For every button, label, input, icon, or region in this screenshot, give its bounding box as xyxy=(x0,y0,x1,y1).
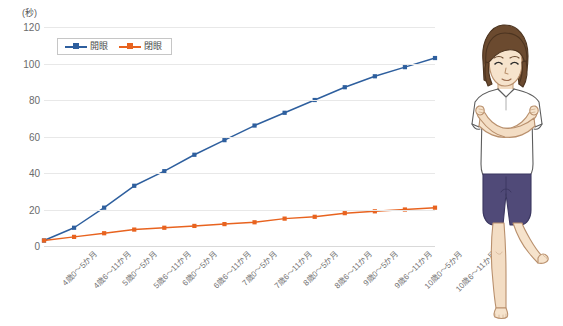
legend-marker-icon-1 xyxy=(119,42,141,51)
leg-standing xyxy=(492,223,507,308)
data-point-0-13[interactable] xyxy=(433,56,437,60)
data-point-0-5[interactable] xyxy=(192,153,196,157)
y-tick-label-80: 80 xyxy=(0,95,40,106)
data-point-0-1[interactable] xyxy=(72,226,76,230)
legend-label-1: 閉眼 xyxy=(144,42,162,51)
shorts xyxy=(483,174,531,225)
legend-item-1[interactable]: 閉眼 xyxy=(119,42,162,51)
data-point-1-3[interactable] xyxy=(132,227,136,231)
x-tick-label-3: 5歳6～11か月 xyxy=(153,250,193,290)
data-point-1-5[interactable] xyxy=(192,224,196,228)
data-point-0-10[interactable] xyxy=(343,85,347,89)
data-point-1-0[interactable] xyxy=(42,238,46,242)
y-tick-label-0: 0 xyxy=(0,241,40,252)
x-tick-label-4: 6歳0～5か月 xyxy=(182,250,220,288)
line-chart: (秒) 020406080100120 開眼 閉眼 4歳0～5か月4歳6～ xyxy=(0,0,440,326)
y-tick-label-100: 100 xyxy=(0,58,40,69)
x-tick-label-8: 8歳0～5か月 xyxy=(302,250,340,288)
plot-area xyxy=(44,27,435,246)
data-point-0-3[interactable] xyxy=(132,184,136,188)
x-tick-label-1: 4歳6～11か月 xyxy=(92,250,132,290)
y-tick-label-60: 60 xyxy=(0,131,40,142)
data-point-0-6[interactable] xyxy=(222,138,226,142)
data-point-1-9[interactable] xyxy=(313,215,317,219)
legend-marker-icon-0 xyxy=(65,42,87,51)
gridline-60 xyxy=(44,137,435,138)
data-point-1-8[interactable] xyxy=(283,217,287,221)
chart-legend: 開眼 閉眼 xyxy=(57,38,172,55)
gridline-80 xyxy=(44,100,435,101)
data-point-1-7[interactable] xyxy=(252,220,256,224)
data-point-1-6[interactable] xyxy=(222,222,226,226)
y-tick-label-20: 20 xyxy=(0,204,40,215)
data-point-0-11[interactable] xyxy=(373,74,377,78)
data-point-1-10[interactable] xyxy=(343,211,347,215)
data-point-1-1[interactable] xyxy=(72,235,76,239)
x-tick-label-5: 6歳6～11か月 xyxy=(213,250,253,290)
legend-item-0[interactable]: 開眼 xyxy=(65,42,108,51)
gridline-120 xyxy=(44,27,435,28)
hand-left xyxy=(476,106,485,115)
data-point-1-2[interactable] xyxy=(102,231,106,235)
y-tick-label-40: 40 xyxy=(0,168,40,179)
y-axis-ticks: 020406080100120 xyxy=(0,27,40,246)
x-tick-label-7: 7歳6～11か月 xyxy=(273,250,313,290)
x-tick-label-6: 7歳0～5か月 xyxy=(242,250,280,288)
data-point-0-7[interactable] xyxy=(252,123,256,127)
data-point-1-4[interactable] xyxy=(162,226,166,230)
data-point-0-8[interactable] xyxy=(283,111,287,115)
gridline-0 xyxy=(44,246,435,247)
gridline-40 xyxy=(44,173,435,174)
child-one-leg-balance-illustration xyxy=(443,14,563,322)
x-tick-label-11: 9歳6～11か月 xyxy=(393,250,433,290)
x-tick-label-2: 5歳0～5か月 xyxy=(121,250,159,288)
x-tick-label-0: 4歳0～5か月 xyxy=(61,250,99,288)
x-tick-label-9: 8歳6～11か月 xyxy=(333,250,373,290)
legend-label-0: 開眼 xyxy=(90,42,108,51)
gridline-20 xyxy=(44,210,435,211)
gridline-100 xyxy=(44,64,435,65)
chart-page: (秒) 020406080100120 開眼 閉眼 4歳0～5か月4歳6～ xyxy=(0,0,563,326)
hand-right xyxy=(530,106,539,115)
y-axis-unit-label: (秒) xyxy=(22,6,37,19)
y-tick-label-120: 120 xyxy=(0,22,40,33)
x-tick-label-10: 9歳0～5か月 xyxy=(362,250,400,288)
data-point-0-12[interactable] xyxy=(403,65,407,69)
